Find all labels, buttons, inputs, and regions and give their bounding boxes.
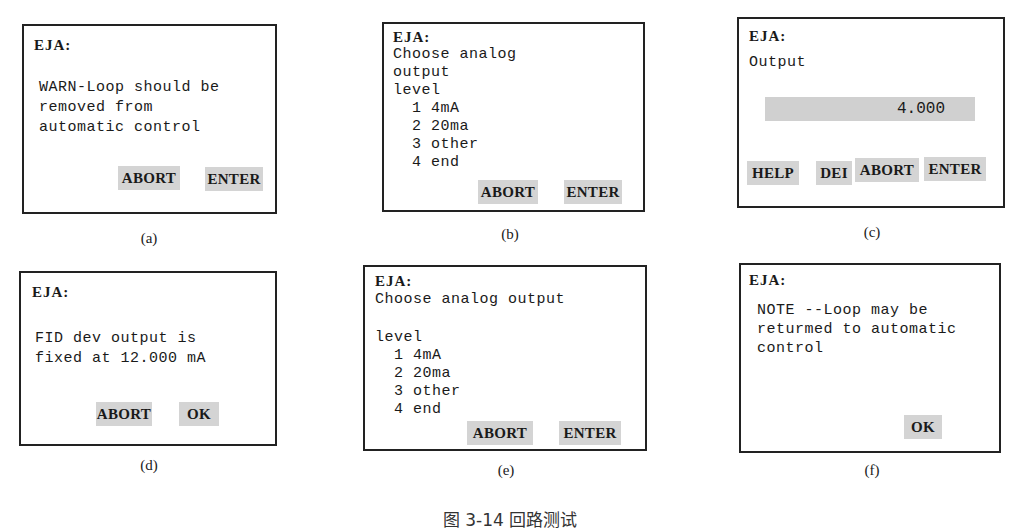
option-4ma[interactable]: 1 4mA xyxy=(393,100,460,118)
message-line: fixed at 12.000 mA xyxy=(35,350,206,368)
help-button[interactable]: HELP xyxy=(747,161,799,185)
option-end[interactable]: 4 end xyxy=(375,401,442,419)
abort-button[interactable]: ABORT xyxy=(467,421,533,445)
screen-e-choose-output: EJA: Choose analog output level 1 4mA 2 … xyxy=(363,265,647,451)
option-other[interactable]: 3 other xyxy=(393,136,479,154)
screen-f-note-loop: EJA: NOTE --Loop may be returmed to auto… xyxy=(739,263,1001,453)
figure-caption: 图 3-14 回路测试 xyxy=(0,506,1020,531)
panel-label-f: (f) xyxy=(842,462,902,479)
message-line: control xyxy=(757,340,824,358)
message-line: returmed to automatic xyxy=(757,321,957,339)
ok-button[interactable]: OK xyxy=(179,402,219,426)
device-title: EJA: xyxy=(393,28,430,46)
screen-b-choose-output: EJA: Choose analog output level 1 4mA 2 … xyxy=(382,22,645,212)
panel-label-c: (c) xyxy=(842,224,902,241)
device-title: EJA: xyxy=(749,271,786,289)
abort-button[interactable]: ABORT xyxy=(855,158,919,182)
prompt-line: output xyxy=(393,64,450,82)
message-line: removed from xyxy=(39,99,153,117)
del-button[interactable]: DEI xyxy=(816,161,852,185)
output-value-field[interactable]: 4.000 xyxy=(765,97,975,121)
prompt-line: Choose analog output xyxy=(375,291,565,309)
message-line: automatic control xyxy=(39,119,201,137)
option-20ma[interactable]: 2 20ma xyxy=(375,365,451,383)
prompt-line: Output xyxy=(749,54,806,72)
enter-button[interactable]: ENTER xyxy=(564,180,622,204)
screen-a-warn-loop: EJA: WARN-Loop should be removed from au… xyxy=(22,24,277,214)
option-other[interactable]: 3 other xyxy=(375,383,461,401)
prompt-line: Choose analog xyxy=(393,46,517,64)
message-line: NOTE --Loop may be xyxy=(757,302,928,320)
message-line: WARN-Loop should be xyxy=(39,79,220,97)
ok-button[interactable]: OK xyxy=(904,415,942,439)
enter-button[interactable]: ENTER xyxy=(924,157,986,181)
panel-label-a: (a) xyxy=(119,230,179,247)
message-line: FID dev output is xyxy=(35,330,197,348)
device-title: EJA: xyxy=(375,272,412,290)
prompt-line: level xyxy=(375,329,423,347)
screen-c-output: EJA: Output 4.000 HELP DEI ABORT ENTER xyxy=(737,17,1005,208)
device-title: EJA: xyxy=(32,283,69,301)
screen-d-fixed-output: EJA: FID dev output is fixed at 12.000 m… xyxy=(19,271,277,446)
abort-button[interactable]: ABORT xyxy=(96,402,152,426)
panel-label-d: (d) xyxy=(119,457,179,474)
device-title: EJA: xyxy=(34,36,71,54)
option-20ma[interactable]: 2 20ma xyxy=(393,118,469,136)
enter-button[interactable]: ENTER xyxy=(559,421,621,445)
panel-label-e: (e) xyxy=(476,462,536,479)
enter-button[interactable]: ENTER xyxy=(205,167,263,191)
panel-label-b: (b) xyxy=(480,226,540,243)
prompt-line: level xyxy=(393,82,441,100)
option-4ma[interactable]: 1 4mA xyxy=(375,347,442,365)
abort-button[interactable]: ABORT xyxy=(118,166,180,190)
abort-button[interactable]: ABORT xyxy=(478,180,538,204)
option-end[interactable]: 4 end xyxy=(393,154,460,172)
device-title: EJA: xyxy=(749,27,786,45)
